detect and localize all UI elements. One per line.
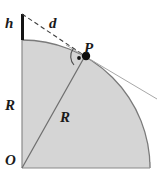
label-tangent-distance-d: d	[49, 16, 57, 31]
label-radius-diagonal: R	[60, 110, 70, 125]
label-radius-vertical: R	[5, 98, 15, 113]
label-origin-o: O	[5, 153, 16, 168]
label-tangent-point-p: P	[84, 41, 93, 56]
right-angle-dot-marker	[77, 56, 81, 60]
geometry-diagram	[0, 0, 158, 180]
figure-container: h d P R R O	[0, 0, 158, 180]
label-height-h: h	[5, 16, 13, 31]
